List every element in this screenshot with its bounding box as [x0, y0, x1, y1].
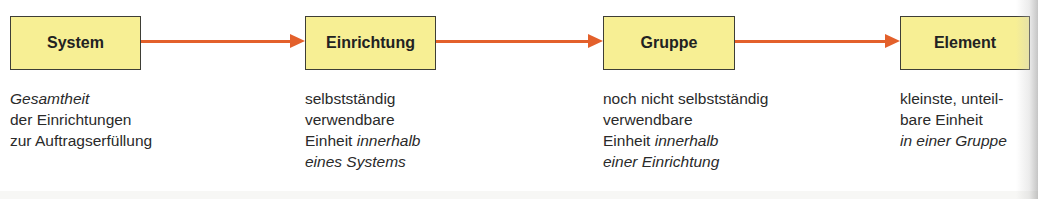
description-line: einer Einrichtung [603, 151, 768, 172]
description-text: verwendbare [603, 111, 693, 128]
description-text-italic: innerhalb [655, 132, 719, 149]
description-text: verwendbare [305, 111, 395, 128]
node-description-element: kleinste, unteil-bare Einheitin einer Gr… [900, 88, 1007, 151]
description-line: in einer Gruppe [900, 130, 1007, 151]
description-line: Einheit innerhalb [305, 130, 420, 151]
description-line: verwendbare [305, 109, 420, 130]
node-label-system: System [47, 34, 104, 52]
description-line: bare Einheit [900, 109, 1007, 130]
description-text: selbstständig [305, 90, 395, 107]
description-text: bare Einheit [900, 111, 983, 128]
description-line: Einheit innerhalb [603, 130, 768, 151]
arrow-gruppe-to-element [735, 40, 886, 43]
node-label-element: Element [934, 34, 996, 52]
description-text-italic: in einer Gruppe [900, 132, 1007, 149]
description-text: noch nicht selbstständig [603, 90, 768, 107]
node-box-gruppe: Gruppe [603, 16, 735, 70]
description-line: eines Systems [305, 151, 420, 172]
arrowhead-icon [290, 34, 305, 48]
description-line: selbstständig [305, 88, 420, 109]
description-text: zur Auftragserfüllung [10, 132, 152, 149]
arrow-einrichtung-to-gruppe [436, 40, 589, 43]
description-text: der Einrichtungen [10, 111, 132, 128]
description-text-italic: innerhalb [357, 132, 421, 149]
description-line: zur Auftragserfüllung [10, 130, 152, 151]
node-box-einrichtung: Einrichtung [305, 16, 436, 70]
arrowhead-icon [885, 34, 900, 48]
description-line: Gesamtheit [10, 88, 152, 109]
arrow-system-to-einrichtung [141, 40, 291, 43]
arrowhead-icon [588, 34, 603, 48]
node-description-system: Gesamtheitder Einrichtungenzur Auftragse… [10, 88, 152, 151]
description-text: kleinste, unteil- [900, 90, 1003, 107]
node-description-gruppe: noch nicht selbstständigverwendbareEinhe… [603, 88, 768, 172]
node-box-system: System [10, 16, 141, 70]
description-text-italic: Gesamtheit [10, 90, 89, 107]
node-box-element: Element [900, 16, 1030, 70]
description-text: Einheit [305, 132, 357, 149]
description-text-italic: eines Systems [305, 153, 406, 170]
node-label-gruppe: Gruppe [641, 34, 698, 52]
description-line: verwendbare [603, 109, 768, 130]
description-line: noch nicht selbstständig [603, 88, 768, 109]
node-label-einrichtung: Einrichtung [326, 34, 415, 52]
description-text-italic: einer Einrichtung [603, 153, 719, 170]
description-line: kleinste, unteil- [900, 88, 1007, 109]
node-description-einrichtung: selbstständigverwendbareEinheit innerhal… [305, 88, 420, 172]
page-bottom-band [0, 191, 1038, 199]
description-text: Einheit [603, 132, 655, 149]
hierarchy-diagram: System Einrichtung Gruppe Element Gesamt… [0, 0, 1038, 199]
description-line: der Einrichtungen [10, 109, 152, 130]
